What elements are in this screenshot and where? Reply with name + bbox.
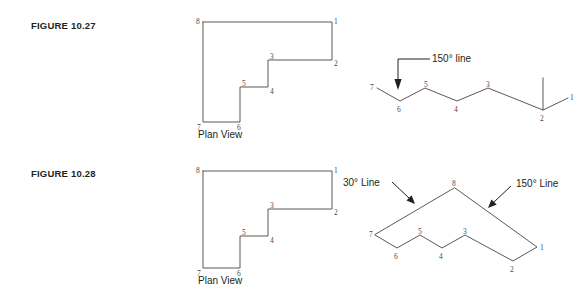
vertex-label-8: 8 [452, 179, 456, 188]
annotation-30-line-1028: 30° Line [343, 177, 380, 188]
figure-page: FIGURE 10.27 8 1 2 3 4 5 6 7 Plan View 1… [0, 0, 587, 291]
vertex-label-7: 7 [369, 230, 373, 239]
annotation-150-line-1028: 150° Line [516, 178, 559, 189]
chevron-outline-1028 [375, 188, 537, 261]
vertex-label-4: 4 [439, 252, 443, 261]
vertex-label-3: 3 [463, 227, 467, 236]
vertex-label-5: 5 [418, 227, 422, 236]
leader-line-30-1028 [392, 182, 409, 198]
vertex-label-1: 1 [540, 243, 544, 252]
vertex-label-6: 6 [394, 252, 398, 261]
auxiliary-view-1028-drawing: 30° Line 150° Line 8 7 6 5 4 3 2 1 [0, 0, 587, 291]
leader-line-150-1028 [494, 186, 511, 202]
vertex-label-2: 2 [510, 265, 514, 274]
